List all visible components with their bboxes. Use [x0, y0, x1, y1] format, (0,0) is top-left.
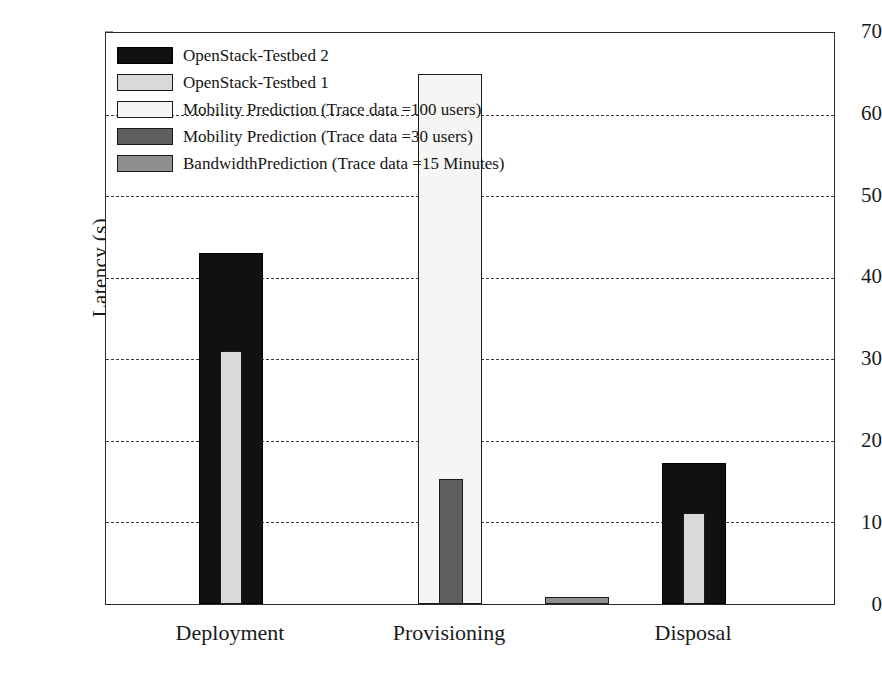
legend-swatch-medium-gray-icon [117, 155, 173, 172]
legend-label-mobility-30-users: Mobility Prediction (Trace data =30 user… [183, 128, 473, 146]
legend-label-mobility-100-users: Mobility Prediction (Trace data =100 use… [183, 101, 481, 119]
legend-item-mobility-30-users: Mobility Prediction (Trace data =30 user… [117, 124, 469, 149]
legend-item-mobility-100-users: Mobility Prediction (Trace data =100 use… [117, 97, 469, 122]
legend-item-openstack-testbed-2: OpenStack-Testbed 2 [117, 43, 469, 68]
legend-item-bandwidth-prediction: BandwidthPrediction (Trace data =15 Minu… [117, 151, 469, 176]
x-tick-label-disposal: Disposal [655, 620, 732, 646]
chart-figure: Latency (s) 70 60 50 40 30 20 10 0 [0, 0, 882, 700]
legend-item-openstack-testbed-1: OpenStack-Testbed 1 [117, 70, 469, 95]
legend-label-openstack-testbed-1: OpenStack-Testbed 1 [183, 74, 329, 92]
legend-swatch-dark-gray-icon [117, 128, 173, 145]
chart-legend: OpenStack-Testbed 2 OpenStack-Testbed 1 … [117, 39, 469, 180]
legend-label-openstack-testbed-2: OpenStack-Testbed 2 [183, 47, 329, 65]
bar-bandwidth-prediction-15-minutes [545, 597, 609, 604]
bar-provisioning-mobility-30-users [439, 479, 463, 604]
bar-deployment-openstack-testbed-1 [220, 351, 242, 604]
bar-disposal-openstack-testbed-1 [683, 513, 705, 604]
x-tick-label-deployment: Deployment [176, 620, 285, 646]
legend-swatch-black-icon [117, 47, 173, 64]
legend-label-bandwidth-prediction: BandwidthPrediction (Trace data =15 Minu… [183, 155, 505, 173]
plot-area: OpenStack-Testbed 2 OpenStack-Testbed 1 … [105, 32, 835, 605]
x-tick-label-provisioning: Provisioning [393, 620, 505, 646]
legend-swatch-light-gray-icon [117, 74, 173, 91]
legend-swatch-white-icon [117, 101, 173, 118]
